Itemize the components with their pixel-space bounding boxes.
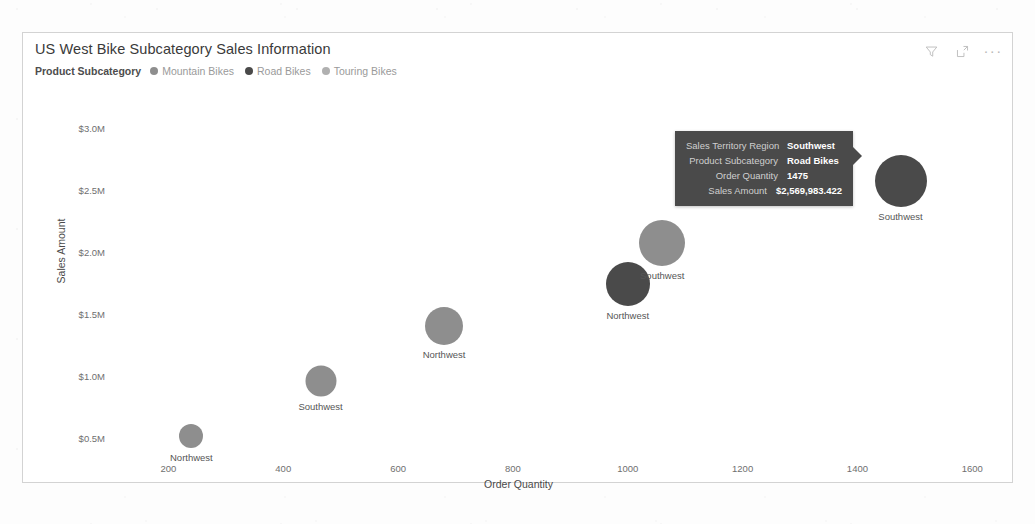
- tooltip-row: Product Subcategory Road Bikes: [686, 155, 842, 166]
- data-point-label: Northwest: [423, 349, 466, 360]
- x-axis-tick-label: 600: [390, 463, 406, 474]
- x-axis-tick-label: 800: [505, 463, 521, 474]
- x-axis-tick-label: 1200: [732, 463, 753, 474]
- x-axis-title: Order Quantity: [23, 478, 1014, 490]
- data-point-label: Southwest: [878, 211, 922, 222]
- tooltip-value: $2,569,983.422: [776, 185, 842, 196]
- y-axis-tick-label: $2.5M: [79, 184, 105, 195]
- data-point-bubble[interactable]: [179, 424, 203, 448]
- tooltip-row: Sales Territory Region Southwest: [686, 140, 842, 151]
- y-axis-tick-label: $3.0M: [79, 122, 105, 133]
- y-axis-tick-label: $0.5M: [79, 433, 105, 444]
- tooltip-key: Sales Amount: [686, 185, 776, 196]
- chart-visual-card: US West Bike Subcategory Sales Informati…: [22, 32, 1013, 483]
- tooltip: Sales Territory Region Southwest Product…: [675, 131, 853, 206]
- x-axis-tick-label: 1000: [617, 463, 638, 474]
- tooltip-value: Southwest: [787, 140, 835, 151]
- data-point-label: Southwest: [640, 270, 684, 281]
- tooltip-row: Sales Amount $2,569,983.422: [686, 185, 842, 196]
- tooltip-value: 1475: [787, 170, 808, 181]
- x-axis-tick-label: 1600: [962, 463, 983, 474]
- data-point-bubble[interactable]: [425, 307, 463, 345]
- tooltip-key: Order Quantity: [686, 170, 787, 181]
- data-point-label: Northwest: [606, 310, 649, 321]
- data-point-bubble[interactable]: [305, 366, 336, 397]
- y-axis-tick-label: $1.5M: [79, 309, 105, 320]
- plot-area[interactable]: Sales Amount $0.5M$1.0M$1.5M$2.0M$2.5M$3…: [23, 33, 1014, 484]
- x-axis-tick-label: 1400: [847, 463, 868, 474]
- tooltip-value: Road Bikes: [787, 155, 839, 166]
- data-point-bubble[interactable]: [875, 155, 927, 207]
- data-point-label: Southwest: [298, 401, 342, 412]
- y-axis-tick-label: $2.0M: [79, 246, 105, 257]
- y-axis-ticks: $0.5M$1.0M$1.5M$2.0M$2.5M$3.0M: [51, 33, 105, 484]
- x-axis-tick-label: 200: [160, 463, 176, 474]
- tooltip-row: Order Quantity 1475: [686, 170, 842, 181]
- x-axis-tick-label: 400: [275, 463, 291, 474]
- data-point-bubble[interactable]: [639, 220, 685, 266]
- x-axis-ticks: 2004006008001000120014001600: [23, 463, 1014, 479]
- y-axis-tick-label: $1.0M: [79, 371, 105, 382]
- data-point-label: Northwest: [170, 452, 213, 463]
- tooltip-key: Product Subcategory: [686, 155, 787, 166]
- tooltip-key: Sales Territory Region: [686, 140, 787, 151]
